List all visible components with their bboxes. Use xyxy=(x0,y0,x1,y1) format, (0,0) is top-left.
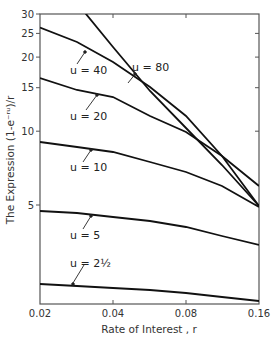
y-tick-10: 10 xyxy=(21,126,34,137)
x-tick-0.16: 0.16 xyxy=(248,308,270,319)
x-tick-labels: 0.02 0.04 0.08 0.16 xyxy=(29,308,270,319)
arrow-u20 xyxy=(86,95,97,110)
label-u80: u = 80 xyxy=(132,61,169,74)
curve-u2.5 xyxy=(40,284,259,301)
x-tick-0.08: 0.08 xyxy=(175,308,197,319)
y-tick-5: 5 xyxy=(28,200,34,211)
curves xyxy=(40,0,259,301)
y-tick-25: 25 xyxy=(21,28,34,39)
label-u2.5: u = 2½ xyxy=(70,257,111,270)
y-tick-30: 30 xyxy=(21,9,34,20)
label-u40: u = 40 xyxy=(70,64,107,77)
curve-u80 xyxy=(77,0,259,206)
y-tick-labels: 30 25 20 15 10 5 xyxy=(21,9,34,211)
curve-u10 xyxy=(40,142,259,207)
label-u10: u = 10 xyxy=(70,161,107,174)
x-axis-label: Rate of Interest , r xyxy=(101,323,197,335)
arrow-u5 xyxy=(83,216,91,229)
label-u5: u = 5 xyxy=(70,229,100,242)
x-tick-0.02: 0.02 xyxy=(29,308,51,319)
x-tick-0.04: 0.04 xyxy=(102,308,124,319)
y-tick-20: 20 xyxy=(21,52,34,63)
x-axis xyxy=(113,14,186,304)
arrow-u40 xyxy=(77,52,85,64)
y-axis-label: The Expression (1-e⁻ʳᵘ)/r xyxy=(4,95,16,225)
chart: 30 25 20 15 10 5 0.02 0.04 0.08 0.16 Rat… xyxy=(0,0,277,340)
y-tick-15: 15 xyxy=(21,82,34,93)
label-u20: u = 20 xyxy=(70,110,107,123)
